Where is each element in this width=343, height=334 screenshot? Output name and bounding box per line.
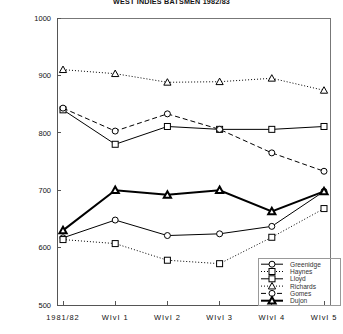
data-point-lloyd [164,123,170,129]
legend-marker-haynes [269,269,275,275]
legend-marker-dujon [268,297,275,303]
legend-label-richards: Richards [290,283,317,290]
data-point-lloyd [269,126,275,132]
series-line-greenidge [63,191,324,237]
data-point-richards [59,66,66,72]
x-tick-label: WIvI 3 [206,313,233,322]
data-point-lloyd [321,123,327,129]
legend-marker-richards [268,283,275,289]
line-chart-plot: 50060070080090010001981/82WIvI 1WIvI 2WI… [0,0,343,334]
data-point-gomes [321,168,327,174]
y-tick-label: 800 [38,129,51,138]
data-point-gomes [112,128,118,134]
chart-container: WEST INDIES BATSMEN 1982/83 500600700800… [0,0,343,334]
data-point-gomes [217,126,223,132]
series-line-lloyd [63,110,324,144]
data-point-gomes [60,105,66,111]
data-point-richards [216,78,223,84]
data-point-gomes [164,111,170,117]
x-tick-label: WIvI 2 [154,313,181,322]
series-line-gomes [63,108,324,171]
y-tick-label: 700 [38,186,51,195]
data-point-richards [320,87,327,93]
x-tick-label: WIvI 1 [102,313,129,322]
data-point-lloyd [112,141,118,147]
data-point-dujon [320,188,327,194]
data-point-haynes [269,234,275,240]
series-line-haynes [63,209,324,264]
data-point-dujon [216,187,223,193]
data-point-greenidge [269,223,275,229]
series-line-richards [63,70,324,91]
data-point-haynes [60,237,66,243]
data-point-dujon [112,187,119,193]
data-point-greenidge [112,217,118,223]
data-point-richards [268,75,275,81]
x-tick-label: 1981/82 [46,313,79,322]
x-tick-label: WIvI 4 [258,313,285,322]
data-point-greenidge [217,231,223,237]
y-tick-label: 1000 [34,14,51,23]
data-point-dujon [164,191,171,197]
y-tick-label: 600 [38,243,51,252]
legend-label-gomes: Gomes [290,290,312,297]
y-tick-label: 900 [38,71,51,80]
y-tick-label: 500 [38,301,51,310]
legend-marker-lloyd [269,276,275,282]
legend-marker-greenidge [269,261,275,267]
x-tick-label: WIvI 5 [311,313,338,322]
data-point-gomes [269,150,275,156]
data-point-haynes [112,241,118,247]
data-point-haynes [217,261,223,267]
data-point-dujon [268,208,275,214]
data-point-richards [112,70,119,76]
data-point-haynes [164,257,170,263]
data-point-haynes [321,206,327,212]
data-point-greenidge [164,233,170,239]
legend-label-dujon: Dujon [290,297,308,305]
